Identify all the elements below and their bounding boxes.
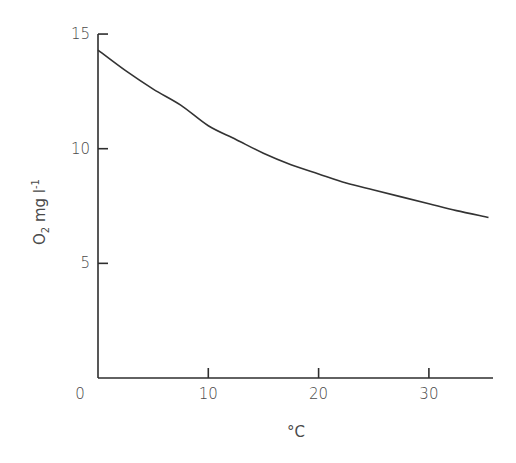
x-ticks: 0102030	[75, 368, 438, 403]
y-tick-label: 15	[71, 25, 90, 43]
chart: 51015 0102030 °C O2 mg l-1	[0, 0, 516, 463]
oxygen-solubility-curve	[98, 50, 489, 217]
x-tick-label: 0	[75, 385, 85, 403]
y-tick-label: 5	[80, 254, 90, 272]
plot-area: 51015 0102030	[71, 25, 493, 403]
y-label-superscript: -1	[30, 179, 41, 189]
y-tick-label: 10	[71, 140, 90, 158]
y-axis-label: O2 mg l-1	[30, 179, 51, 245]
x-axis-label: °C	[287, 423, 305, 441]
x-tick-label: 10	[199, 385, 218, 403]
y-label-main: O	[31, 233, 49, 245]
x-tick-label: 30	[419, 385, 438, 403]
y-label-unit: mg l	[31, 189, 49, 227]
y-ticks: 51015	[71, 25, 108, 272]
x-tick-label: 20	[309, 385, 328, 403]
